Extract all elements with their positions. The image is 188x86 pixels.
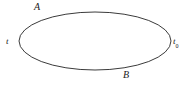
contour-ellipse-graphic xyxy=(0,0,188,86)
label-end-point-subscript: 0 xyxy=(176,43,179,49)
label-lower-arc-b: B xyxy=(123,70,129,80)
label-end-point-t-zero: t0 xyxy=(173,37,179,48)
contour-figure: A B t t0 xyxy=(0,0,188,86)
ellipse-path xyxy=(19,12,171,70)
label-start-point-t: t xyxy=(6,37,9,46)
label-upper-arc-a: A xyxy=(34,2,40,12)
